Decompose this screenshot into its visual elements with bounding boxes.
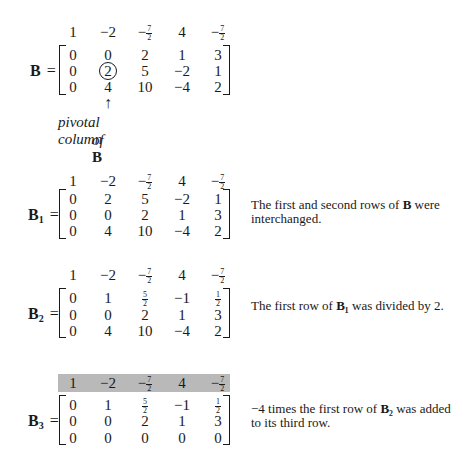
header-cell: −72 xyxy=(203,267,233,285)
matrix-cell: 0 xyxy=(93,207,123,223)
matrix-cell: −4 xyxy=(167,223,197,239)
matrix-cell: 4 xyxy=(93,79,123,95)
fraction: 12 xyxy=(215,291,221,308)
header-cell: −72 xyxy=(130,173,160,191)
matrix-cell: 0 xyxy=(58,290,88,306)
of-b-label: of B xyxy=(92,132,104,166)
matrix-cell: 52 xyxy=(130,290,160,308)
matrix-cell: 0 xyxy=(58,47,88,63)
matrix-cell: 1 xyxy=(167,47,197,63)
matrix-cell: −4 xyxy=(167,323,197,339)
matrix-cell: 5 xyxy=(130,63,160,79)
matrix-cell: 2 xyxy=(93,191,123,207)
matrix-label: B= xyxy=(30,62,56,80)
matrix-cell: 0 xyxy=(130,430,160,446)
matrix-cell: 0 xyxy=(203,430,233,446)
matrix-cell: 1 xyxy=(167,207,197,223)
matrix-cell: 2 xyxy=(203,79,233,95)
header-cell: −2 xyxy=(93,24,123,40)
header-cell: 1 xyxy=(58,267,88,283)
header-cell: 1 xyxy=(58,173,88,189)
header-cell: 1 xyxy=(58,375,88,391)
matrix-cell: −2 xyxy=(167,191,197,207)
header-cell: −72 xyxy=(130,375,160,393)
header-cell: −2 xyxy=(93,173,123,189)
matrix-cell: 1 xyxy=(203,63,233,79)
matrix-cell: 3 xyxy=(203,207,233,223)
matrix-cell: 0 xyxy=(58,397,88,413)
matrix-cell: 0 xyxy=(58,430,88,446)
matrix-label: B2= xyxy=(28,305,59,328)
matrix-cell: 3 xyxy=(203,413,233,429)
fraction: 52 xyxy=(142,291,148,308)
fraction: 72 xyxy=(219,376,225,393)
header-cell: −2 xyxy=(93,375,123,391)
matrix-cell: 0 xyxy=(167,430,197,446)
header-cell: 4 xyxy=(167,24,197,40)
step-description: −4 times the first row of B₂ was added t… xyxy=(251,402,456,430)
step-description: The first and second rows of B were inte… xyxy=(251,198,456,226)
header-cell: −72 xyxy=(203,375,233,393)
matrix-cell: 0 xyxy=(58,191,88,207)
matrix-cell: 0 xyxy=(58,413,88,429)
header-cell: −72 xyxy=(130,24,160,42)
matrix-cell: 12 xyxy=(203,290,233,308)
matrix-cell: 4 xyxy=(93,323,123,339)
matrix-label: B1= xyxy=(28,206,59,229)
header-cell: −72 xyxy=(203,24,233,42)
header-cell: 4 xyxy=(167,375,197,391)
matrix-cell: 0 xyxy=(58,223,88,239)
matrix-cell: 2 xyxy=(130,307,160,323)
header-cell: −2 xyxy=(93,267,123,283)
matrix-cell: −4 xyxy=(167,79,197,95)
matrix-cell: 0 xyxy=(58,63,88,79)
matrix-cell: 10 xyxy=(130,323,160,339)
header-cell: 1 xyxy=(58,24,88,40)
header-cell: −72 xyxy=(130,267,160,285)
fraction: 72 xyxy=(146,268,152,285)
matrix-cell: 2 xyxy=(203,323,233,339)
matrix-cell: 2 xyxy=(203,223,233,239)
matrix-cell: 0 xyxy=(58,307,88,323)
fraction: 72 xyxy=(219,25,225,42)
matrix-cell: 3 xyxy=(203,307,233,323)
matrix-cell: 1 xyxy=(93,290,123,306)
fraction: 72 xyxy=(219,268,225,285)
arrow-up-icon: ↑ xyxy=(93,95,123,111)
fraction: 72 xyxy=(146,174,152,191)
matrix-cell: 0 xyxy=(58,323,88,339)
matrix-cell: −1 xyxy=(167,397,197,413)
matrix-cell: 1 xyxy=(203,191,233,207)
matrix-cell: 2 xyxy=(93,63,123,80)
matrix-cell: 2 xyxy=(130,207,160,223)
step-description: The first row of B₁ was divided by 2. xyxy=(251,299,456,313)
pivot-circle: 2 xyxy=(99,62,117,80)
matrix-cell: 0 xyxy=(93,430,123,446)
matrix-cell: 5 xyxy=(130,191,160,207)
matrix-cell: −2 xyxy=(167,63,197,79)
matrix-cell: 2 xyxy=(130,47,160,63)
fraction: 72 xyxy=(146,376,152,393)
matrix-cell: 1 xyxy=(167,413,197,429)
matrix-cell: 1 xyxy=(93,397,123,413)
matrix-cell: 1 xyxy=(167,307,197,323)
header-cell: 4 xyxy=(167,173,197,189)
matrix-cell: −1 xyxy=(167,290,197,306)
matrix-cell: 0 xyxy=(58,207,88,223)
matrix-label: B3= xyxy=(28,412,59,435)
matrix-cell: 0 xyxy=(58,79,88,95)
matrix-cell: 10 xyxy=(130,223,160,239)
matrix-cell: 4 xyxy=(93,223,123,239)
matrix-cell: 2 xyxy=(130,413,160,429)
equals-sign: = xyxy=(47,62,56,79)
matrix-cell: 10 xyxy=(130,79,160,95)
matrix-cell: 0 xyxy=(93,413,123,429)
fraction: 72 xyxy=(146,25,152,42)
matrix-cell: 0 xyxy=(93,47,123,63)
header-cell: 4 xyxy=(167,267,197,283)
matrix-cell: 3 xyxy=(203,47,233,63)
matrix-cell: 0 xyxy=(93,307,123,323)
